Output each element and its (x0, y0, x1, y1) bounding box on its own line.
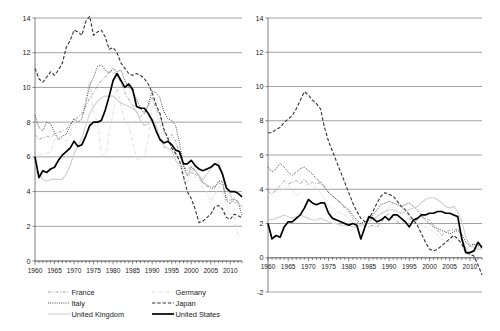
y-tick-label-14: 14 (23, 14, 31, 23)
x-tick-label-1995: 1995 (402, 263, 417, 270)
series-group (268, 92, 482, 275)
x-tick-label-1980: 1980 (341, 263, 356, 270)
x-tick-label-1965: 1965 (281, 263, 296, 270)
legend-label-italy: Italy (72, 299, 86, 308)
x-tick-label-1995: 1995 (164, 267, 179, 274)
x-tick-label-2000: 2000 (184, 267, 199, 274)
y-tick-label-14: 14 (256, 14, 264, 23)
x-tick-label-1975: 1975 (86, 267, 101, 274)
y-tick-label-0: 0 (260, 253, 264, 262)
legend-label-united-states: United States (176, 310, 221, 319)
x-tick-label-1975: 1975 (321, 263, 336, 270)
x-tick-label-1960: 1960 (28, 267, 43, 274)
gridlines-group (35, 18, 242, 261)
series-line-japan (268, 92, 482, 275)
x-tick-label-2010: 2010 (223, 267, 238, 274)
x-tick-label-2000: 2000 (422, 263, 437, 270)
legend-group: FranceGermanyItalyJapanUnited KingdomUni… (48, 288, 220, 319)
y-tick-label-10: 10 (256, 82, 264, 91)
chart-panel-left: 0246810121419601965197019751980198519901… (0, 0, 250, 331)
y-tick-label-8: 8 (27, 118, 31, 127)
y-tick-labels-group: -202468101214 (256, 14, 269, 297)
series-line-united-states (35, 74, 242, 197)
x-tick-label-2010: 2010 (463, 263, 478, 270)
y-tick-label-4: 4 (27, 187, 31, 196)
x-tick-label-1985: 1985 (362, 263, 377, 270)
y-tick-label-6: 6 (260, 151, 264, 160)
chart-svg-left: 0246810121419601965197019751980198519901… (0, 0, 250, 331)
x-tick-label-1965: 1965 (47, 267, 62, 274)
gridlines-group (268, 18, 482, 292)
legend-item-japan[interactable]: Japan (152, 299, 196, 308)
series-line-france (35, 70, 242, 205)
y-tick-labels-group: 02468101214 (23, 14, 36, 266)
x-tick-label-1980: 1980 (106, 267, 121, 274)
x-tick-label-2005: 2005 (203, 267, 218, 274)
y-tick-label-8: 8 (260, 116, 264, 125)
y-tick-label-0: 0 (27, 257, 31, 266)
legend-label-france: France (72, 288, 95, 297)
legend-item-united-states[interactable]: United States (152, 310, 220, 319)
chart-svg-right: -202468101214196019651970197519801985199… (250, 0, 500, 331)
x-tick-labels-group: 1960196519701975198019851990199520002005… (28, 267, 238, 274)
legend-item-germany[interactable]: Germany (152, 288, 206, 297)
series-group (35, 16, 242, 235)
y-tick-label-12: 12 (256, 48, 264, 57)
y-tick-label--2: -2 (257, 288, 263, 297)
legend-label-japan: Japan (176, 299, 196, 308)
x-tick-label-1970: 1970 (67, 267, 82, 274)
y-tick-label-6: 6 (27, 152, 31, 161)
y-tick-label-10: 10 (23, 83, 31, 92)
x-tick-label-1970: 1970 (301, 263, 316, 270)
x-tick-label-1990: 1990 (382, 263, 397, 270)
y-tick-label-4: 4 (260, 185, 264, 194)
x-tick-label-2005: 2005 (442, 263, 457, 270)
x-tick-label-1990: 1990 (145, 267, 160, 274)
chart-panel-right: -202468101214196019651970197519801985199… (250, 0, 500, 331)
legend-item-france[interactable]: France (48, 288, 95, 297)
x-tick-label-1960: 1960 (261, 263, 276, 270)
series-line-italy (268, 164, 482, 248)
two-panel-line-chart-figure: 0246810121419601965197019751980198519901… (0, 0, 500, 331)
legend-item-united-kingdom[interactable]: United Kingdom (48, 310, 124, 319)
legend-item-italy[interactable]: Italy (48, 299, 85, 308)
x-minor-ticks-group (268, 258, 482, 261)
y-tick-label-12: 12 (23, 48, 31, 57)
y-tick-label-2: 2 (260, 219, 264, 228)
legend-label-germany: Germany (176, 288, 207, 297)
x-minor-ticks-group (35, 261, 242, 264)
legend-label-united-kingdom: United Kingdom (72, 310, 125, 319)
y-tick-label-2: 2 (27, 222, 31, 231)
x-tick-label-1985: 1985 (125, 267, 140, 274)
x-tick-labels-group: 1960196519701975198019851990199520002005… (261, 263, 478, 270)
